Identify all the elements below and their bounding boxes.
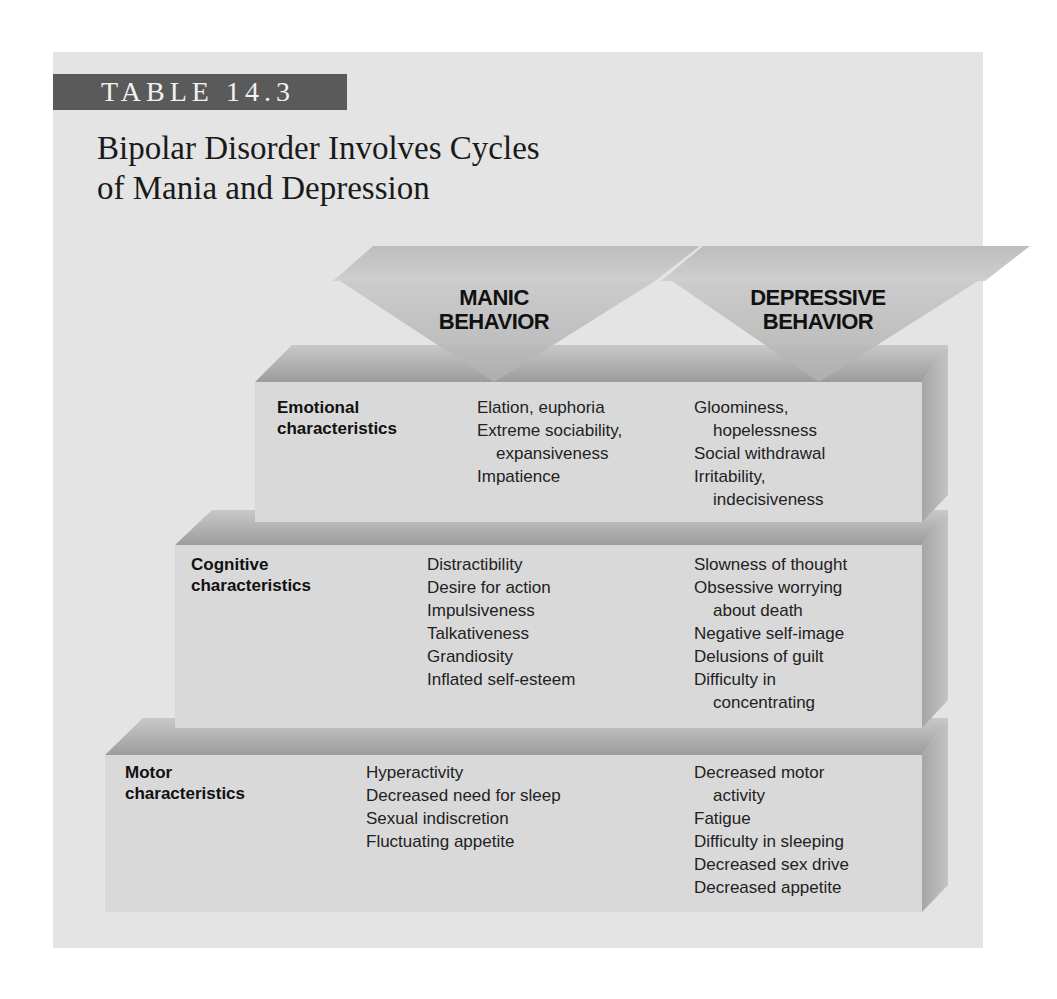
row-label-motor: Motor characteristics — [125, 762, 245, 804]
row-label-line-1: Motor — [125, 762, 245, 783]
list-item: Talkativeness — [427, 622, 575, 645]
list-item: hopelessness — [694, 419, 825, 442]
manic-header-line-1: MANIC — [404, 286, 584, 310]
list-item: Delusions of guilt — [694, 645, 847, 668]
depressive-header-line-2: BEHAVIOR — [718, 310, 918, 334]
emotional-depressive-list: Gloominess, hopelessness Social withdraw… — [694, 396, 825, 511]
list-item: Impulsiveness — [427, 599, 575, 622]
motor-manic-list: Hyperactivity Decreased need for sleep S… — [366, 761, 561, 853]
list-item: Fluctuating appetite — [366, 830, 561, 853]
list-item: Impatience — [477, 465, 622, 488]
manic-behavior-header: MANIC BEHAVIOR — [404, 286, 584, 334]
list-item: Decreased sex drive — [694, 853, 849, 876]
row-label-line-1: Cognitive — [191, 554, 311, 575]
list-item: Sexual indiscretion — [366, 807, 561, 830]
depressive-header-line-1: DEPRESSIVE — [718, 286, 918, 310]
list-item: activity — [694, 784, 849, 807]
cognitive-manic-list: Distractibility Desire for action Impuls… — [427, 553, 575, 691]
row-label-line-2: characteristics — [191, 575, 311, 596]
list-item: expansiveness — [477, 442, 622, 465]
cognitive-depressive-list: Slowness of thought Obsessive worrying a… — [694, 553, 847, 714]
cognitive-block-side-face — [922, 510, 948, 728]
list-item: Slowness of thought — [694, 553, 847, 576]
depressive-behavior-header: DEPRESSIVE BEHAVIOR — [718, 286, 918, 334]
motor-depressive-list: Decreased motor activity Fatigue Difficu… — [694, 761, 849, 899]
list-item: Distractibility — [427, 553, 575, 576]
list-item: Negative self-image — [694, 622, 847, 645]
list-item: Inflated self-esteem — [427, 668, 575, 691]
row-label-line-2: characteristics — [125, 783, 245, 804]
row-label-line-1: Emotional — [277, 397, 397, 418]
list-item: Difficulty in — [694, 668, 847, 691]
list-item: Irritability, — [694, 465, 825, 488]
list-item: Obsessive worrying — [694, 576, 847, 599]
list-item: Fatigue — [694, 807, 849, 830]
row-label-line-2: characteristics — [277, 418, 397, 439]
list-item: Grandiosity — [427, 645, 575, 668]
list-item: Difficulty in sleeping — [694, 830, 849, 853]
list-item: Desire for action — [427, 576, 575, 599]
row-label-cognitive: Cognitive characteristics — [191, 554, 311, 596]
manic-slab — [333, 246, 700, 281]
list-item: Decreased need for sleep — [366, 784, 561, 807]
list-item: Decreased appetite — [694, 876, 849, 899]
list-item: concentrating — [694, 691, 847, 714]
list-item: Decreased motor — [694, 761, 849, 784]
list-item: Hyperactivity — [366, 761, 561, 784]
row-label-emotional: Emotional characteristics — [277, 397, 397, 439]
manic-header-line-2: BEHAVIOR — [404, 310, 584, 334]
list-item: Extreme sociability, — [477, 419, 622, 442]
list-item: indecisiveness — [694, 488, 825, 511]
list-item: Social withdrawal — [694, 442, 825, 465]
list-item: about death — [694, 599, 847, 622]
list-item: Gloominess, — [694, 396, 825, 419]
emotional-manic-list: Elation, euphoria Extreme sociability, e… — [477, 396, 622, 488]
list-item: Elation, euphoria — [477, 396, 622, 419]
depressive-slab — [661, 246, 1030, 281]
